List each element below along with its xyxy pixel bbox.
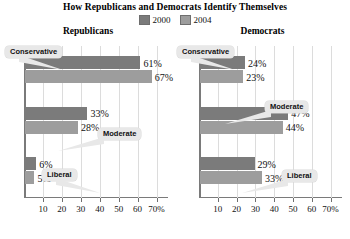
tick-mark (119, 198, 120, 202)
chart-title: How Republicans and Democrats Identify T… (0, 2, 350, 12)
bar-row: 29% (200, 157, 342, 170)
tick-label: 10 (38, 204, 47, 214)
tick-mark (293, 198, 294, 202)
bar-row: 67% (25, 70, 168, 83)
bar-2004-liberal (200, 171, 262, 184)
legend-label-2000: 2000 (153, 15, 171, 25)
bar-row: 44% (200, 121, 342, 134)
panel-republicans: Republicans 61%67%33%28%6%5% 10203040506… (2, 26, 174, 239)
bar-row: 33% (25, 107, 168, 120)
tick-label: 10 (213, 204, 222, 214)
bar-row: 28% (25, 121, 168, 134)
bar-value-label: 6% (36, 158, 52, 169)
bar-value-label: 24% (245, 57, 266, 68)
tick-mark (62, 198, 63, 202)
panel-democrats: Democrats 24%23%47%44%29%33% 10203040506… (177, 26, 348, 239)
bar-row: 23% (200, 70, 342, 83)
bar-2000-liberal (25, 157, 36, 170)
tick-mark (274, 198, 275, 202)
bar-2000-conservative (25, 56, 140, 69)
bar-value-label: 33% (262, 172, 283, 183)
legend-swatch-2000 (139, 15, 150, 25)
bar-2004-moderate (25, 121, 78, 134)
tick-label: 40 (270, 204, 279, 214)
legend-item-2004: 2004 (180, 15, 212, 25)
tick-label: 70% (148, 204, 165, 214)
tick-mark (43, 198, 44, 202)
callout-conservative: Conservative (177, 46, 234, 58)
panel-title-democrats: Democrats (177, 26, 348, 36)
bar-value-label: 23% (243, 71, 264, 82)
tick-label: 20 (232, 204, 241, 214)
bar-value-label: 67% (152, 71, 173, 82)
tick-label: 30 (251, 204, 260, 214)
bar-2000-conservative (200, 56, 245, 69)
bar-2000-moderate (25, 107, 87, 120)
bar-2004-moderate (200, 121, 283, 134)
tick-label: 30 (76, 204, 85, 214)
bar-value-label: 28% (78, 122, 99, 133)
bar-2004-conservative (200, 70, 243, 83)
bar-row: 33% (200, 171, 342, 184)
bar-2000-liberal (200, 157, 255, 170)
chart-root: How Republicans and Democrats Identify T… (0, 0, 350, 239)
tick-mark (331, 198, 332, 202)
legend-swatch-2004 (180, 15, 191, 25)
bar-value-label: 29% (255, 158, 276, 169)
chart-legend: 2000 2004 (0, 15, 350, 25)
legend-item-2000: 2000 (139, 15, 171, 25)
tick-mark (100, 198, 101, 202)
x-axis-ticks-republicans: 10203040506070% (24, 198, 168, 224)
bar-row: 24% (200, 56, 342, 69)
callout-liberal: Liberal (42, 169, 77, 181)
callout-moderate: Moderate (98, 128, 141, 140)
tick-mark (312, 198, 313, 202)
bar-row: 61% (25, 56, 168, 69)
bar-2004-conservative (25, 70, 152, 83)
tick-mark (138, 198, 139, 202)
tick-label: 20 (57, 204, 66, 214)
callout-liberal: Liberal (282, 170, 317, 182)
tick-mark (255, 198, 256, 202)
legend-label-2004: 2004 (194, 15, 212, 25)
tick-mark (237, 198, 238, 202)
tick-mark (218, 198, 219, 202)
panel-title-republicans: Republicans (2, 26, 174, 36)
plot-area-democrats: 24%23%47%44%29%33% (199, 46, 342, 198)
bar-value-label: 33% (87, 108, 108, 119)
tick-label: 60 (307, 204, 316, 214)
tick-label: 50 (289, 204, 298, 214)
tick-label: 40 (95, 204, 104, 214)
bar-group: 33%28% (25, 97, 168, 148)
bar-group: 29%33% (200, 147, 342, 198)
bar-value-label: 61% (140, 57, 161, 68)
tick-mark (81, 198, 82, 202)
tick-label: 60 (133, 204, 142, 214)
callout-conservative: Conservative (5, 46, 62, 58)
callout-moderate: Moderate (265, 101, 308, 113)
bar-value-label: 44% (283, 122, 304, 133)
bar-2004-liberal (25, 171, 34, 184)
tick-label: 70% (322, 204, 339, 214)
x-axis-ticks-democrats: 10203040506070% (199, 198, 342, 224)
tick-mark (157, 198, 158, 202)
tick-label: 50 (114, 204, 123, 214)
